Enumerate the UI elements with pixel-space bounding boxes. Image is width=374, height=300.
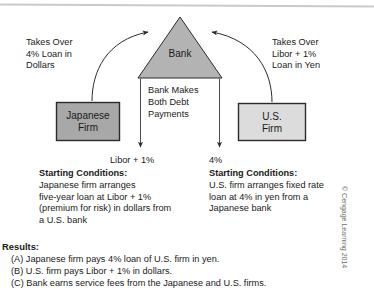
results-title: Results: [2, 241, 332, 253]
libor-rate-label: Libor + 1% [110, 155, 154, 167]
starting-conditions-left: Starting Conditions: Japanese firm arran… [39, 168, 209, 227]
results-section: Results: (A) Japanese firm pays 4% loan … [2, 241, 332, 289]
starting-conditions-right-title: Starting Conditions: [209, 168, 367, 180]
bank-payments-note: Bank Makes Both Debt Payments [148, 84, 228, 120]
bank-label: Bank [152, 48, 208, 60]
result-item: (B) U.S. firm pays Libor + 1% in dollars… [2, 265, 332, 277]
takes-over-left-label: Takes Over 4% Loan in Dollars [26, 37, 122, 72]
result-item: (A) Japanese firm pays 4% loan of U.S. f… [2, 253, 332, 265]
results-list: (A) Japanese firm pays 4% loan of U.S. f… [2, 253, 332, 289]
takes-over-right-label: Takes Over Libor + 1% Loan in Yen [272, 37, 368, 72]
starting-conditions-left-body: Japanese firm arranges five-year loan at… [39, 180, 209, 227]
copyright-notice: © Cengage Learning 2014 [341, 186, 348, 268]
starting-conditions-left-title: Starting Conditions: [39, 168, 209, 180]
us-firm-label: U.S. Firm [238, 111, 306, 135]
fixed-rate-label: 4% [209, 155, 222, 167]
result-item: (C) Bank earns service fees from the Jap… [2, 277, 332, 289]
diagram-page: Bank Japanese Firm U.S. Firm Bank Makes … [0, 0, 374, 300]
japanese-firm-label: Japanese Firm [56, 110, 120, 134]
top-rule-divider [0, 5, 374, 7]
